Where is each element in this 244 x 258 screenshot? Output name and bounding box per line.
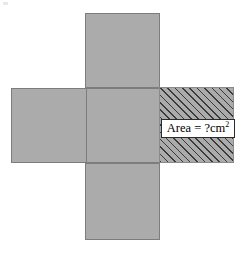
net-square-center xyxy=(86,88,160,163)
scan-artifact xyxy=(3,2,8,5)
area-label-superscript: 2 xyxy=(225,120,229,129)
net-square-left xyxy=(11,88,87,163)
net-square-top xyxy=(85,13,160,88)
area-label-box: Area = ?cm2 xyxy=(161,119,235,138)
net-square-bottom xyxy=(85,163,160,240)
area-label-prefix: Area = ?cm xyxy=(167,121,225,135)
area-label-text: Area = ?cm2 xyxy=(167,122,229,135)
cube-net-figure: Area = ?cm2 xyxy=(0,0,244,258)
